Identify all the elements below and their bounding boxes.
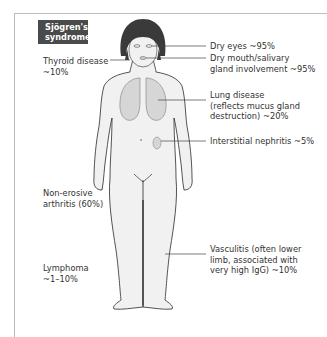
label-line: very high IgG) ~10% (210, 265, 301, 276)
label-line: Thyroid disease (43, 56, 108, 67)
label-line: arthritis (60%) (43, 199, 103, 210)
label-interstitial-nephritis: Interstitial nephritis ~5% (210, 136, 314, 147)
label-line: Interstitial nephritis ~5% (210, 136, 314, 147)
label-thyroid-disease: Thyroid disease ~10% (43, 56, 108, 77)
label-vasculitis: Vasculitis (often lower limb, associated… (210, 244, 301, 276)
label-line: Dry mouth/salivary (210, 53, 315, 64)
body-figure (0, 0, 327, 337)
title-line-2: syndrome (45, 32, 88, 42)
label-line: gland involvement ~95% (210, 64, 315, 75)
label-arthritis: Non-erosive arthritis (60%) (43, 188, 103, 209)
label-lymphoma: Lymphoma ~1–10% (43, 263, 89, 284)
label-line: Lymphoma (43, 263, 89, 274)
label-line: limb, associated with (210, 255, 301, 266)
label-dry-mouth: Dry mouth/salivary gland involvement ~95… (210, 53, 315, 74)
label-line: Non-erosive (43, 188, 103, 199)
label-lung-disease: Lung disease (reflects mucus gland destr… (210, 90, 300, 122)
label-line: ~10% (43, 67, 108, 78)
label-line: ~1–10% (43, 274, 89, 285)
label-dry-eyes: Dry eyes ~95% (210, 41, 275, 52)
title-line-1: Sjögren's (45, 22, 88, 32)
label-line: destruction) ~20% (210, 111, 300, 122)
label-line: Lung disease (210, 90, 300, 101)
mouth (140, 57, 146, 60)
title-box: Sjögren's syndrome (38, 20, 88, 44)
kidney (153, 137, 161, 149)
label-line: (reflects mucus gland (210, 101, 300, 112)
label-line: Dry eyes ~95% (210, 41, 275, 52)
label-line: Vasculitis (often lower (210, 244, 301, 255)
